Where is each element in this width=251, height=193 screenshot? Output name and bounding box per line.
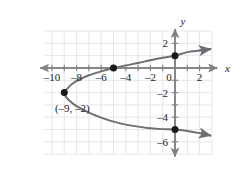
y-tick-label-2: 2 (163, 37, 169, 49)
y-tick-label--2: –2 (156, 87, 168, 99)
x-tick-label--4: –4 (119, 71, 132, 83)
x-tick-label--8: –8 (70, 71, 83, 83)
data-point-1 (110, 65, 117, 72)
x-tick-label--6: –6 (95, 71, 108, 83)
x-tick-label--10: –10 (43, 71, 61, 83)
data-point-2 (172, 52, 179, 59)
x-axis-label: x (224, 62, 230, 74)
data-point-0 (61, 89, 68, 96)
curve-arrow-lower (200, 133, 211, 135)
curve-arrow-upper (200, 49, 211, 50)
x-tick-label-2: 2 (197, 71, 203, 83)
y-tick-label--6: –6 (156, 136, 169, 148)
axis-tick-labels: –10–8–6–4–2022–2–4–6xy(–9, –2) (43, 15, 230, 148)
grid-lines (45, 31, 212, 154)
vertex-point-label: (–9, –2) (55, 102, 90, 115)
graph-figure: –10–8–6–4–2022–2–4–6xy(–9, –2) (0, 0, 251, 193)
coordinate-plane-plot: –10–8–6–4–2022–2–4–6xy(–9, –2) (0, 0, 251, 193)
data-point-3 (172, 126, 179, 133)
y-axis-label: y (180, 15, 186, 27)
y-tick-label--4: –4 (156, 111, 169, 123)
x-tick-label--2: –2 (144, 71, 156, 83)
x-tick-label-0: 0 (166, 71, 172, 83)
